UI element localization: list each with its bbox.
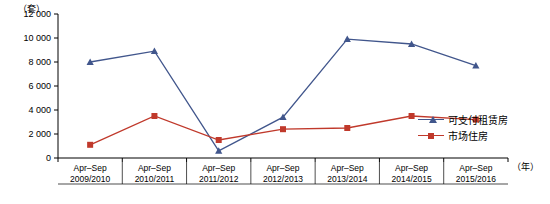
x-tick-label-top: Apr–Sep (331, 163, 364, 173)
y-axis-ticks (54, 14, 58, 158)
x-tick-label-bottom: 2010/2011 (135, 174, 175, 184)
x-tick-label-bottom: 2011/2012 (199, 174, 239, 184)
x-tick-label-bottom: 2013/2014 (327, 174, 367, 184)
legend-item-affordable-rental: 可支付租赁房 (418, 112, 508, 127)
data-point-marker (151, 48, 158, 54)
y-axis-unit-label: （套） (18, 2, 45, 15)
y-tick-label: 6 000 (28, 81, 51, 91)
x-tick-label-top: Apr–Sep (202, 163, 235, 173)
y-tick-label: 2 000 (28, 129, 51, 139)
x-axis-tick-labels: Apr–Sep2009/2010Apr–Sep2010/2011Apr–Sep2… (58, 163, 508, 184)
data-point-marker (280, 126, 286, 132)
x-tick-label-top: Apr–Sep (138, 163, 171, 173)
data-point-marker (216, 137, 222, 143)
y-tick-label: 8 000 (28, 57, 51, 67)
y-axis-tick-labels: 02 0004 0006 0008 00010 00012 000 (23, 9, 51, 163)
data-point-marker (87, 142, 93, 148)
legend-label-market-housing: 市场住房 (448, 128, 488, 143)
legend-swatch-market-housing (418, 135, 444, 136)
x-tick-label-top: Apr–Sep (266, 163, 299, 173)
legend-swatch-affordable-rental (418, 119, 444, 120)
data-point-marker (409, 113, 415, 119)
x-tick-label-bottom: 2014/2015 (391, 174, 431, 184)
x-tick-label-bottom: 2009/2010 (70, 174, 110, 184)
chart-plot-area: 02 0004 0006 0008 00010 00012 000 Apr–Se… (0, 0, 550, 204)
x-tick-label-top: Apr–Sep (459, 163, 492, 173)
x-tick-label-top: Apr–Sep (74, 163, 107, 173)
data-point-marker (344, 125, 350, 131)
y-tick-label: 0 (46, 153, 51, 163)
legend-item-market-housing: 市场住房 (418, 128, 488, 143)
x-tick-label-bottom: 2012/2013 (263, 174, 303, 184)
x-tick-label-bottom: 2015/2016 (456, 174, 496, 184)
data-point-marker (215, 147, 222, 153)
x-tick-label-top: Apr–Sep (395, 163, 428, 173)
y-tick-label: 10 000 (23, 33, 51, 43)
triangle-marker-icon (429, 116, 437, 123)
x-axis-unit-label: （年） (512, 160, 539, 173)
data-point-marker (151, 113, 157, 119)
y-tick-label: 4 000 (28, 105, 51, 115)
line-chart: （套） （年） 02 0004 0006 0008 00010 00012 00… (0, 0, 550, 204)
square-marker-icon (428, 133, 434, 139)
legend-label-affordable-rental: 可支付租赁房 (448, 112, 508, 127)
